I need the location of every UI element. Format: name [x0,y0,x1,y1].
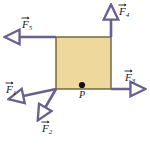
force-label-f1: F1 [6,84,16,95]
force-diagram-figure: F1 F2 F3 F4 [0,0,150,145]
force-label-f2: F2 [42,123,52,134]
force-label-f3-subscript: 3 [132,77,136,85]
vector-arrow-overbar-icon [21,15,30,20]
force-label-f5-subscript: 5 [29,24,33,32]
vector-arrow-overbar-icon [124,68,133,73]
force-label-f5: F5 [22,19,32,30]
force-label-f4-subscript: 4 [126,11,130,19]
point-p-label: P [79,90,85,100]
force-label-f4: F4 [119,6,129,17]
point-p-dot [79,82,85,88]
vector-arrow-overbar-icon [41,119,50,124]
square-block [56,37,111,89]
force-label-f1-subscript: 1 [13,89,17,97]
vector-arrow-overbar-icon [5,80,14,85]
force-vector-f2 [38,89,56,120]
force-label-f2-subscript: 2 [49,128,53,136]
force-label-f3: F3 [125,72,135,83]
vector-arrow-overbar-icon [118,2,127,7]
